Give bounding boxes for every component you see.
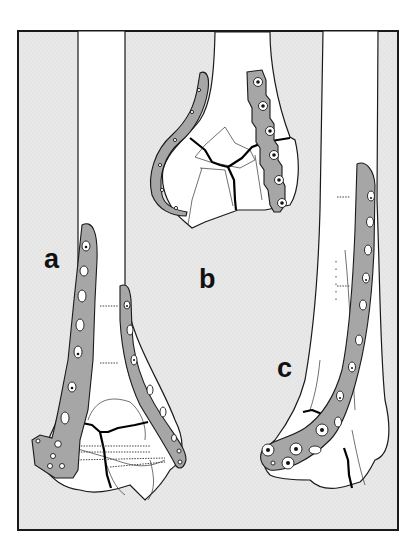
panel-label-b: b: [199, 264, 216, 294]
figure-illustration: a c: [0, 0, 420, 539]
panel-label-c: c: [277, 353, 292, 383]
panel-label-a: a: [44, 244, 60, 274]
